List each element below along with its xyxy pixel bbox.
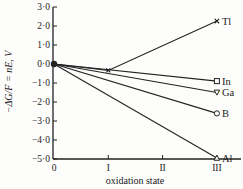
triangle-up-marker-icon xyxy=(214,155,220,160)
y-tick-label: −5·0 xyxy=(32,154,50,164)
series-label-al: Al xyxy=(222,153,233,164)
origin-dot-icon xyxy=(51,61,57,67)
y-tick-label: 1·0 xyxy=(37,40,50,50)
y-tick-label: −1·0 xyxy=(32,78,50,88)
series-label-ga: Ga xyxy=(222,87,235,98)
y-tick-label: −2·0 xyxy=(32,97,50,107)
circle-marker-icon xyxy=(214,111,219,116)
series-markers xyxy=(51,19,220,160)
y-tick-label: 2·0 xyxy=(37,21,50,31)
x-axis-title: oxidation state xyxy=(106,175,165,186)
series-line-tl xyxy=(54,21,217,70)
series-labels: TlInGaBAl xyxy=(222,16,235,164)
series-label-b: B xyxy=(222,108,229,119)
x-tick-label: I xyxy=(107,163,110,173)
y-tick-label: −3·0 xyxy=(32,116,50,126)
axes xyxy=(53,7,241,159)
y-axis-title: −ΔG/F = nE, V xyxy=(3,49,14,114)
y-tick-label: −4·0 xyxy=(32,135,50,145)
x-tick-label: III xyxy=(212,163,222,173)
x-tick-label: II xyxy=(159,163,165,173)
x-tick-label: 0 xyxy=(52,163,57,173)
triangle-down-marker-icon xyxy=(214,90,220,95)
frost-diagram: 3·02·01·00·0−1·0−2·0−3·0−4·0−5·0 0IIIIII… xyxy=(0,0,243,189)
x-axis-ticks: 0IIIIII xyxy=(52,155,222,173)
series-lines xyxy=(54,21,217,158)
y-tick-label: 3·0 xyxy=(37,2,50,12)
series-label-in: In xyxy=(222,76,231,87)
series-label-tl: Tl xyxy=(222,16,231,27)
y-tick-label: 0·0 xyxy=(37,59,50,69)
square-marker-icon xyxy=(214,79,219,84)
cross-marker-icon xyxy=(215,19,219,23)
